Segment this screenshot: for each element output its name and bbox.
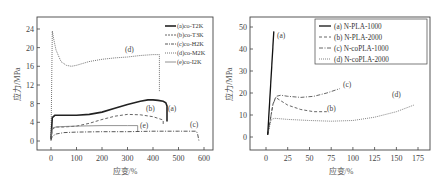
right-ytick: 10 <box>239 111 247 120</box>
right-ytick: 50 <box>239 23 247 32</box>
right-ytick: 40 <box>239 45 247 54</box>
left-label-e: (e) <box>140 121 149 130</box>
left-curve-c <box>51 131 199 141</box>
right-xtick: 0 <box>264 154 268 163</box>
right-curve-b <box>268 97 327 134</box>
left-ytick: 12 <box>26 81 34 90</box>
right-ytick: 0 <box>243 133 247 142</box>
right-ytick: 20 <box>239 89 247 98</box>
right-xtick: 75 <box>327 154 335 163</box>
right-xtick: 25 <box>284 154 292 163</box>
left-y-axis-title: 应力/MPa <box>12 67 22 101</box>
left-xtick: 0 <box>49 154 53 163</box>
left-chart: 0 4 8 12 16 20 24 0 100 200 300 400 500 … <box>12 17 213 176</box>
right-xtick: 100 <box>347 154 359 163</box>
left-xtick: 200 <box>96 154 108 163</box>
left-legend: (a)co-T2K (b)co-T3K (c)co-H2K (d)co-M2K … <box>165 22 206 66</box>
left-label-c: (c) <box>190 120 199 129</box>
right-xtick: 125 <box>369 154 381 163</box>
left-legend-a: (a)co-T2K <box>177 22 204 30</box>
left-legend-e: (e)co-I2K <box>177 58 202 66</box>
left-label-d: (d) <box>125 45 134 54</box>
right-curve-d <box>268 105 414 135</box>
left-xtick: 400 <box>147 154 159 163</box>
left-label-b: (b) <box>146 104 155 113</box>
right-legend-c: (c) N-coPLA-1000 <box>334 45 389 53</box>
right-legend-d: (d) N-coPLA-2000 <box>334 56 389 64</box>
left-label-a: (a) <box>168 104 177 113</box>
right-legend-b: (b) N-PLA-2000 <box>334 34 383 42</box>
right-xtick: 50 <box>306 154 314 163</box>
right-xtick: 175 <box>412 154 424 163</box>
right-label-d: (d) <box>392 90 401 99</box>
left-legend-d: (d)co-M2K <box>177 49 206 57</box>
right-label-c: (c) <box>343 80 352 89</box>
left-legend-b: (b)co-T3K <box>177 31 204 39</box>
right-label-b: (b) <box>327 104 336 113</box>
left-xtick: 100 <box>71 154 83 163</box>
left-ytick: 4 <box>30 118 34 127</box>
figure: 0 4 8 12 16 20 24 0 100 200 300 400 500 … <box>0 0 442 184</box>
left-xtick: 300 <box>122 154 134 163</box>
left-xtick: 500 <box>173 154 185 163</box>
right-legend-a: (a) N-PLA-1000 <box>334 23 382 31</box>
right-xtick: 150 <box>390 154 402 163</box>
right-y-axis-title: 应力/MPa <box>224 67 234 101</box>
right-ytick: 30 <box>239 67 247 76</box>
left-legend-c: (c)co-H2K <box>177 40 204 48</box>
right-label-a: (a) <box>277 31 286 40</box>
left-x-axis-title: 应变/% <box>113 166 138 176</box>
right-chart: 0 10 20 30 40 50 0 25 50 75 100 125 150 <box>224 17 430 176</box>
left-ytick: 8 <box>30 100 34 109</box>
right-legend: (a) N-PLA-1000 (b) N-PLA-2000 (c) N-coPL… <box>315 19 427 64</box>
left-ytick: 24 <box>26 25 34 34</box>
left-xtick: 600 <box>198 154 210 163</box>
left-ytick: 20 <box>26 44 34 53</box>
left-ytick: 0 <box>30 137 34 146</box>
right-x-axis-title: 应变/% <box>329 166 354 176</box>
left-ytick: 16 <box>26 62 34 71</box>
